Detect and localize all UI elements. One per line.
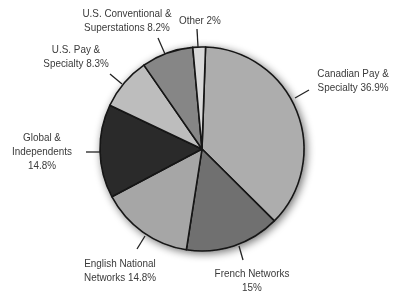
label-us-conventional-superstations: U.S. Conventional & Superstations 8.2% (71, 6, 183, 34)
label-line: English National (73, 256, 168, 270)
label-line: Canadian Pay & (306, 66, 397, 80)
label-us-pay-specialty: U.S. Pay & Specialty 8.3% (33, 42, 119, 70)
leader-line-french (239, 246, 243, 260)
label-line: 15% (205, 280, 300, 294)
label-line: Superstations 8.2% (71, 20, 183, 34)
label-line: Global & (0, 130, 85, 144)
label-canadian-pay-specialty: Canadian Pay & Specialty 36.9% (306, 66, 397, 94)
label-line: French Networks (205, 266, 300, 280)
label-other: Other 2% (174, 13, 226, 27)
label-global-independents: Global & Independents 14.8% (0, 130, 85, 172)
label-line: Specialty 8.3% (33, 56, 119, 70)
label-french-networks: French Networks 15% (205, 266, 300, 294)
pie-slices (100, 47, 304, 251)
label-line: Specialty 36.9% (306, 80, 397, 94)
label-english-national-networks: English National Networks 14.8% (73, 256, 168, 284)
label-line: U.S. Pay & (33, 42, 119, 56)
leader-line-other (197, 29, 198, 47)
leader-line-uspay (110, 74, 122, 84)
leader-line-english (137, 236, 145, 249)
label-line: 14.8% (0, 158, 85, 172)
label-line: Independents (0, 144, 85, 158)
leader-line-usconv (158, 38, 165, 54)
label-line: Other 2% (174, 13, 226, 27)
label-line: Networks 14.8% (73, 270, 168, 284)
label-line: U.S. Conventional & (71, 6, 183, 20)
